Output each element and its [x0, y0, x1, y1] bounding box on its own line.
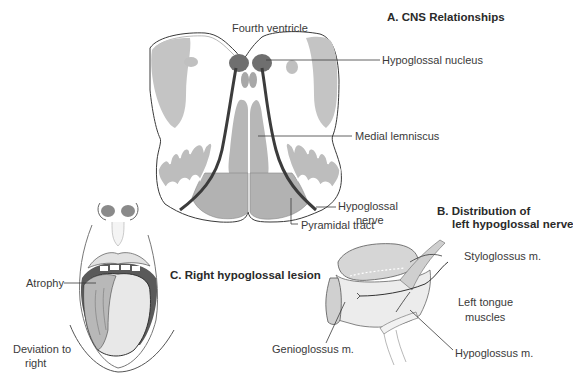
label-deviation-line1: Deviation to — [13, 343, 71, 356]
label-genioglossus: Genioglossus m. — [272, 343, 354, 356]
panel-b-title-line2: left hypoglossal nerve — [452, 218, 573, 231]
genioglossus-cut-face — [326, 278, 341, 324]
panel-b-title-line1: B. Distribution of — [437, 205, 530, 218]
face-tongue-illustration — [70, 203, 174, 372]
label-styloglossus: Styloglossus m. — [464, 250, 541, 263]
panel-c-title: C. Right hypoglossal lesion — [170, 269, 321, 282]
label-fourth-ventricle: Fourth ventricle — [232, 22, 308, 35]
label-left-tongue-muscles-line2: muscles — [465, 311, 505, 324]
label-left-tongue-muscles-line1: Left tongue — [458, 296, 513, 309]
label-deviation-line2: right — [25, 357, 46, 370]
left-hypoglossal-nucleus — [229, 54, 249, 72]
label-hypoglossal-nucleus: Hypoglossal nucleus — [382, 54, 483, 67]
label-pyramidal-tract: Pyramidal tract — [301, 219, 374, 232]
panel-a-title: A. CNS Relationships — [387, 11, 505, 24]
label-hypoglossal-nerve-line1: Hypoglossal — [338, 200, 398, 213]
label-atrophy: Atrophy — [26, 277, 64, 290]
label-hypoglossus: Hypoglossus m. — [455, 347, 533, 360]
label-medial-lemniscus: Medial lemniscus — [355, 130, 439, 143]
